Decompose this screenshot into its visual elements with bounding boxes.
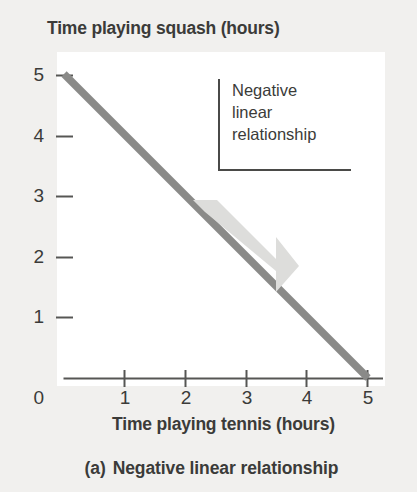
x-axis-title: Time playing tennis (hours) [0,414,417,435]
y-tick-label-4: 4 [22,126,44,145]
trend-arrow-icon [193,200,299,292]
figure-caption-index: (a) [85,458,106,478]
origin-tick-label-0: 0 [22,388,44,407]
y-tick-label-1: 1 [22,307,44,326]
x-tick-label-1: 1 [114,388,136,407]
x-tick-label-2: 2 [175,388,197,407]
y-tick-label-2: 2 [22,247,44,266]
figure-caption-text: Negative linear relationship [113,458,339,478]
y-tick-label-5: 5 [22,65,44,84]
x-tick-label-4: 4 [296,388,318,407]
figure-negative-linear-relationship: Time playing squash (hours) [0,0,417,492]
figure-caption: (a)Negative linear relationship [0,458,417,479]
x-tick-label-3: 3 [236,388,258,407]
y-axis-ticks [56,76,73,318]
annotation-callout-box: Negative linear relationship [218,79,351,171]
x-tick-label-5: 5 [357,388,379,407]
annotation-callout-text: Negative linear relationship [232,80,316,146]
y-tick-label-3: 3 [22,186,44,205]
